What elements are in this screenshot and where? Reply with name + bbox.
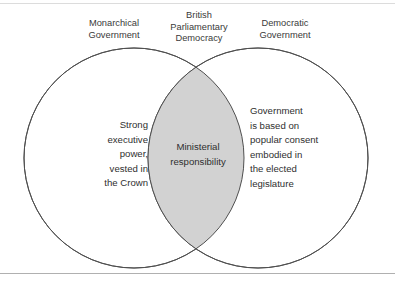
left-set-header-label: Monarchical Government [68, 18, 160, 41]
venn-diagram-figure: Monarchical Government British Parliamen… [0, 0, 395, 285]
intersection-header-label: British Parliamentary Democracy [160, 10, 238, 45]
right-set-body-text: Government is based on popular consent e… [250, 104, 354, 192]
intersection-body-text: Ministerial responsibility [152, 140, 244, 169]
right-set-header-label: Democratic Government [238, 18, 332, 41]
left-set-body-text: Strong executive power, vested in the Cr… [56, 118, 148, 191]
